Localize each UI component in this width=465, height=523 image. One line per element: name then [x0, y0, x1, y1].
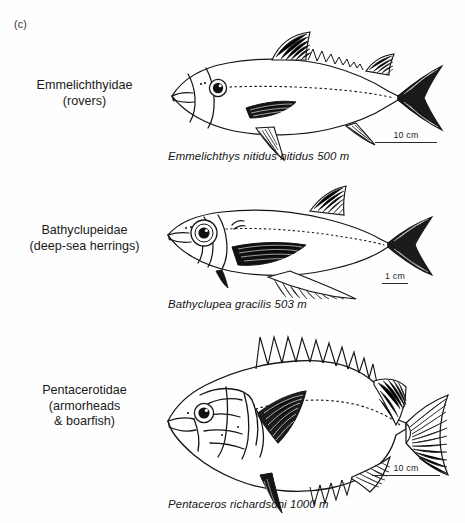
family-label-emmelichthyidae: Emmelichthyidae (rovers)	[2, 78, 167, 109]
figure-panel-c: (c) Emmelichthyidae (rovers)	[0, 0, 465, 523]
scale-bar-line	[372, 475, 440, 476]
family-label-pentacerotidae: Pentacerotidae (armorheads & boarfish)	[2, 383, 167, 430]
figure-row-emmelichthyidae: Emmelichthyidae (rovers)	[0, 30, 465, 180]
family-name: Pentacerotidae	[2, 383, 167, 399]
panel-label: (c)	[14, 18, 27, 30]
scale-label: 1 cm	[378, 271, 412, 281]
species-caption-pentaceros: Pentaceros richardsoni 1000 m	[168, 498, 329, 510]
scale-bar-pentaceros: 10 cm	[368, 463, 444, 476]
fish-illustration-pentaceros	[160, 335, 465, 523]
family-common-name: (deep-sea herrings)	[2, 239, 167, 255]
family-common-name: (rovers)	[2, 94, 167, 110]
species-caption-emmelichthys: Emmelichthys nitidus nitidus 500 m	[168, 150, 349, 162]
figure-row-bathyclupeidae: Bathyclupeidae (deep-sea herrings)	[0, 185, 465, 320]
family-name: Bathyclupeidae	[2, 223, 167, 239]
scale-bar-bathyclupea: 1 cm	[378, 271, 412, 284]
family-common-name-line-1: (armorheads	[2, 399, 167, 415]
scale-label: 10 cm	[371, 130, 441, 140]
scale-label: 10 cm	[368, 463, 444, 473]
family-label-bathyclupeidae: Bathyclupeidae (deep-sea herrings)	[2, 223, 167, 254]
figure-row-pentacerotidae: Pentacerotidae (armorheads & boarfish)	[0, 335, 465, 523]
family-name: Emmelichthyidae	[2, 78, 167, 94]
species-caption-bathyclupea: Bathyclupea gracilis 503 m	[168, 298, 307, 310]
scale-bar-line	[382, 283, 408, 284]
scale-bar-line	[375, 142, 437, 143]
family-common-name-line-2: & boarfish)	[2, 414, 167, 430]
scale-bar-emmelichthys: 10 cm	[371, 130, 441, 143]
